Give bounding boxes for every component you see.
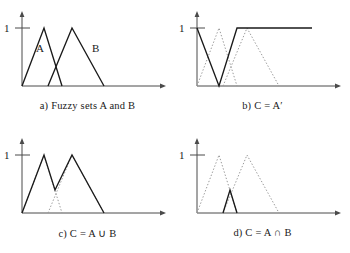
y-axis-arrowhead (20, 138, 25, 144)
y-tick-label-one: 1 (179, 22, 185, 34)
set-B-reference-curve (223, 155, 279, 213)
x-axis-arrowhead (160, 84, 166, 89)
fuzzy-set-figure: 1 A B a) Fuzzy sets A and B 1 b) C = A′ (0, 0, 350, 253)
panel-d-plot: 1 (175, 127, 350, 231)
intersection-A-B-curve (223, 190, 237, 213)
panel-a-caption: a) Fuzzy sets A and B (0, 100, 175, 111)
panel-c-plot: 1 (0, 127, 175, 231)
panel-d: 1 d) C = A ∩ B (175, 127, 350, 253)
set-A-reference-curve (197, 28, 237, 86)
union-A-B-curve (22, 155, 104, 213)
set-B-reference-curve (48, 155, 104, 213)
y-axis-arrowhead (195, 11, 200, 17)
set-B-membership-curve (48, 28, 104, 86)
complement-of-A-curve (197, 28, 312, 86)
x-axis-arrowhead (335, 211, 341, 216)
y-tick-label-one: 1 (179, 149, 185, 161)
set-A-reference-curve (22, 155, 62, 213)
set-B-reference-curve (223, 28, 279, 86)
set-A-reference-curve (197, 155, 237, 213)
panel-c-caption: c) C = A ∪ B (0, 227, 175, 239)
panel-a-plot: 1 A B (0, 0, 175, 104)
y-tick-label-one: 1 (4, 149, 10, 161)
panel-d-caption: d) C = A ∩ B (175, 227, 350, 238)
panel-b-plot: 1 (175, 0, 350, 104)
panel-b-caption: b) C = A′ (175, 100, 350, 111)
panel-c: 1 c) C = A ∪ B (0, 127, 175, 253)
panel-a: 1 A B a) Fuzzy sets A and B (0, 0, 175, 126)
y-axis-arrowhead (195, 138, 200, 144)
set-A-membership-curve (22, 28, 62, 86)
set-label-b: B (92, 42, 99, 54)
y-tick-label-one: 1 (4, 22, 10, 34)
x-axis-arrowhead (335, 84, 341, 89)
panel-b: 1 b) C = A′ (175, 0, 350, 126)
x-axis-arrowhead (160, 211, 166, 216)
y-axis-arrowhead (20, 11, 25, 17)
set-label-a: A (36, 42, 44, 54)
